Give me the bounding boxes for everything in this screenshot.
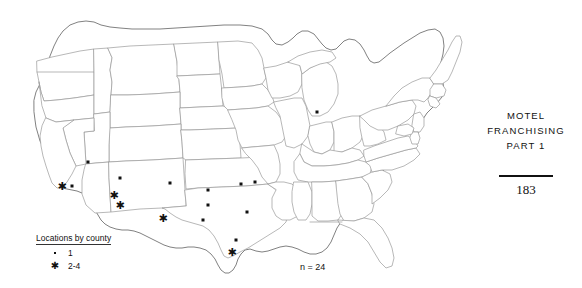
location-marker-dot bbox=[316, 111, 319, 114]
running-head-title: MOTEL FRANCHISING PART 1 bbox=[487, 108, 565, 153]
legend-entries: 1✱2-4 bbox=[36, 248, 156, 271]
location-marker-dot bbox=[235, 239, 238, 242]
horizontal-rule bbox=[499, 175, 553, 177]
location-marker-star bbox=[58, 182, 67, 191]
location-marker-dot bbox=[254, 181, 257, 184]
location-marker-star bbox=[159, 214, 168, 223]
location-marker-dot bbox=[207, 189, 210, 192]
us-county-map-figure: Locations by county 1✱2-4 n = 24 bbox=[0, 0, 470, 288]
legend-entry: 1 bbox=[36, 248, 156, 258]
running-head: MOTEL FRANCHISING PART 1 183 bbox=[470, 0, 582, 288]
figure-page: Locations by county 1✱2-4 n = 24 MOTEL F… bbox=[0, 0, 582, 288]
running-head-line-3: PART 1 bbox=[487, 138, 565, 153]
location-marker-star bbox=[116, 201, 125, 210]
location-marker-dot bbox=[169, 182, 172, 185]
location-marker-dot bbox=[246, 211, 249, 214]
location-marker-dot bbox=[119, 177, 122, 180]
legend-entry: ✱2-4 bbox=[36, 261, 156, 271]
legend-entry-label: 1 bbox=[68, 248, 73, 258]
location-marker-dot bbox=[202, 219, 205, 222]
legend-star-icon: ✱ bbox=[48, 261, 62, 271]
location-marker-dot bbox=[87, 161, 90, 164]
legend-title: Locations by county bbox=[36, 233, 111, 245]
location-marker-star bbox=[228, 248, 237, 257]
location-marker-dot bbox=[240, 183, 243, 186]
running-head-line-1: MOTEL bbox=[487, 108, 565, 123]
legend-dot-icon bbox=[48, 252, 62, 255]
legend-entry-label: 2-4 bbox=[68, 261, 80, 271]
page-number: 183 bbox=[516, 182, 536, 198]
running-head-line-2: FRANCHISING bbox=[487, 123, 565, 138]
location-marker-dot bbox=[71, 185, 74, 188]
map-legend: Locations by county 1✱2-4 bbox=[36, 227, 156, 271]
sample-size-label: n = 24 bbox=[300, 262, 325, 272]
location-marker-dot bbox=[207, 204, 210, 207]
